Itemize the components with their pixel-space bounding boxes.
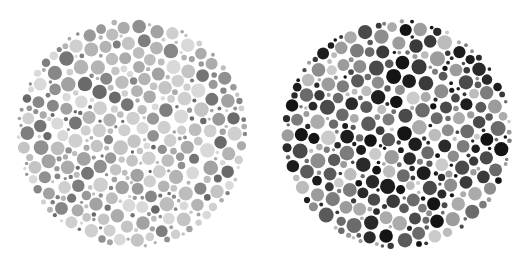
plate-dot	[383, 146, 386, 149]
plate-dot	[310, 115, 324, 129]
plate-dot	[305, 124, 310, 129]
plate-dot	[445, 30, 449, 34]
plate-dot	[379, 229, 393, 243]
plate-dot	[421, 196, 426, 201]
plate-dot	[474, 134, 480, 140]
plate-dot	[412, 54, 417, 59]
plate-dot	[286, 99, 298, 111]
plate-dot	[338, 228, 344, 234]
plate-dot	[325, 182, 334, 191]
plate-dot	[410, 35, 414, 39]
plate-dot	[441, 211, 445, 215]
plate-dot	[335, 42, 348, 55]
plate-dot	[434, 171, 438, 175]
plate-dot	[293, 144, 308, 159]
right-ishihara-plate-dot-group	[282, 19, 512, 249]
plate-dot	[407, 194, 420, 207]
plate-dot	[385, 102, 389, 106]
plate-dot	[392, 216, 407, 231]
plate-dot	[470, 169, 476, 175]
plate-dot	[421, 51, 429, 59]
plate-dot	[471, 145, 480, 154]
plate-dot	[475, 81, 482, 88]
plate-dot	[473, 116, 485, 128]
plate-dot	[337, 59, 349, 71]
plate-dot	[453, 137, 457, 141]
plate-dot	[421, 146, 434, 159]
plate-dot	[489, 163, 502, 176]
plate-dot	[437, 190, 446, 199]
plate-dot	[430, 214, 444, 228]
plate-dot	[340, 146, 355, 161]
plate-dot	[366, 175, 379, 188]
plate-dot	[299, 105, 303, 109]
plate-dot	[393, 51, 396, 54]
plate-dot	[328, 42, 334, 48]
plate-dot	[433, 28, 441, 36]
plate-dot	[445, 51, 450, 56]
plate-dot	[460, 225, 464, 229]
plate-dot	[340, 201, 353, 214]
plate-dot	[291, 114, 303, 126]
plate-dot	[427, 197, 440, 210]
plate-dot	[327, 93, 331, 97]
plate-dot	[491, 121, 506, 136]
plate-dot	[321, 77, 335, 91]
plate-dot	[409, 166, 415, 172]
plate-dot	[442, 124, 454, 136]
plate-dot	[456, 87, 460, 91]
plate-dot	[412, 120, 427, 135]
plate-dot	[382, 22, 386, 26]
plate-dot	[482, 128, 486, 132]
plate-dot	[386, 69, 401, 84]
plate-dot	[448, 151, 459, 162]
plate-dot	[480, 86, 493, 99]
plate-dot	[376, 188, 379, 191]
plate-dot	[327, 59, 332, 64]
plate-dot	[507, 120, 511, 124]
plate-dot	[291, 92, 297, 98]
plate-dot	[311, 188, 324, 201]
plate-dot	[312, 63, 326, 77]
plate-dot	[357, 187, 368, 198]
plate-dot	[358, 95, 363, 100]
plate-dot	[353, 60, 366, 73]
plate-dot	[442, 66, 447, 71]
plate-dot	[445, 171, 452, 178]
plate-dot	[409, 212, 421, 224]
plate-dot	[430, 103, 436, 109]
plate-dot	[356, 134, 363, 141]
plate-dot	[460, 176, 473, 189]
plate-dot	[397, 169, 410, 182]
plate-dot	[429, 129, 441, 141]
plate-dot	[426, 210, 432, 216]
plate-dot	[453, 46, 465, 58]
plate-dot	[308, 133, 319, 144]
plate-dot	[398, 109, 412, 123]
plate-dot	[488, 67, 492, 71]
plate-dot	[314, 90, 324, 100]
plate-dot	[344, 168, 357, 181]
plate-dot	[365, 74, 372, 81]
plate-dot	[384, 85, 390, 91]
plate-dot	[346, 92, 350, 96]
plate-dot	[407, 92, 420, 105]
plate-dot	[410, 106, 414, 110]
plate-dot	[361, 117, 376, 132]
plate-dot	[499, 91, 505, 97]
plate-dot	[422, 217, 429, 224]
plate-dot	[454, 174, 458, 178]
plate-dot	[369, 61, 384, 76]
plate-dot	[348, 69, 354, 75]
plate-dot	[374, 114, 380, 120]
plate-dot	[424, 225, 429, 230]
plate-dot	[435, 153, 440, 158]
plate-dot	[351, 161, 355, 165]
plate-dot	[468, 187, 482, 201]
plate-dot	[418, 204, 427, 213]
plate-dot	[321, 131, 336, 146]
plate-dot	[381, 244, 385, 248]
plate-dot	[358, 25, 372, 39]
plate-dot	[317, 170, 322, 175]
plate-dot	[467, 111, 474, 118]
